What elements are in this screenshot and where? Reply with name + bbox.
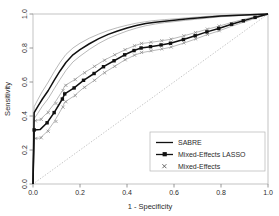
square-marker — [193, 34, 196, 37]
square-marker — [112, 59, 115, 62]
y-tick-label: 0.8 — [21, 43, 28, 53]
square-marker — [242, 19, 245, 22]
legend-label-sabre: SABRE — [178, 139, 202, 146]
square-marker — [182, 38, 185, 41]
x-axis-title: 1 - Specificity — [128, 202, 173, 211]
square-marker — [217, 27, 220, 30]
square-marker — [82, 79, 85, 82]
x-tick-label: 0.8 — [216, 189, 226, 196]
x-axis-ticks: 0.00.20.40.60.81.0 — [28, 184, 273, 196]
x-tick-label: 0.6 — [169, 189, 179, 196]
x-marker — [93, 65, 96, 68]
y-tick-label: 0.0 — [21, 179, 28, 189]
square-marker — [123, 53, 126, 56]
square-marker — [132, 49, 135, 52]
x-tick-label: 0.2 — [75, 189, 85, 196]
x-marker — [113, 53, 116, 56]
square-marker — [139, 46, 142, 49]
x-marker — [54, 102, 57, 105]
x-marker — [124, 48, 127, 51]
y-axis-title: Sensitivity — [3, 82, 12, 116]
x-tick-label: 1.0 — [263, 189, 273, 196]
square-marker — [45, 121, 48, 124]
x-marker — [124, 58, 127, 61]
square-marker — [159, 43, 162, 46]
square-marker — [52, 111, 55, 114]
y-tick-label: 0.2 — [21, 145, 28, 155]
roc-curve-figure: 0.00.20.40.60.81.0 0.00.20.40.60.81.0 1 … — [0, 0, 279, 216]
square-marker — [72, 86, 75, 89]
square-marker — [63, 92, 66, 95]
x-marker — [93, 79, 96, 82]
square-marker — [205, 30, 208, 33]
series-mixed-effects — [34, 24, 221, 140]
x-tick-label: 0.0 — [28, 189, 38, 196]
y-tick-label: 1.0 — [21, 9, 28, 19]
square-marker — [32, 128, 35, 131]
x-tick-label: 0.4 — [122, 189, 132, 196]
legend-label-mixed-effects-lasso: Mixed-Effects LASSO — [178, 151, 246, 158]
square-marker — [230, 23, 233, 26]
square-marker — [102, 65, 105, 68]
legend-label-mixed-effects: Mixed-Effects — [178, 163, 221, 170]
x-marker — [54, 120, 57, 123]
legend[interactable]: SABRE Mixed-Effects LASSO Mixed-Effects — [150, 132, 265, 171]
square-marker — [169, 42, 172, 45]
roc-plot-svg: 0.00.20.40.60.81.0 0.00.20.40.60.81.0 1 … — [0, 0, 279, 216]
square-marker — [149, 45, 152, 48]
legend-square-marker-icon — [163, 152, 167, 156]
x-marker — [113, 65, 116, 68]
square-marker — [61, 97, 64, 100]
square-marker — [92, 72, 95, 75]
y-axis-ticks: 0.00.20.40.60.81.0 — [21, 9, 33, 189]
y-tick-label: 0.6 — [21, 77, 28, 87]
y-tick-label: 0.4 — [21, 111, 28, 121]
square-marker — [253, 16, 256, 19]
